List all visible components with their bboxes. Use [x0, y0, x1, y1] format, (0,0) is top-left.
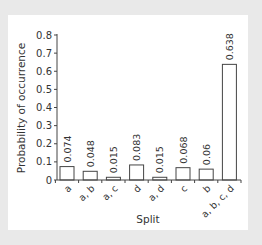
bar-value-label: 0.06 [201, 144, 212, 165]
bar [60, 167, 74, 180]
bars: 0.0740.0480.0150.0830.0150.0680.060.638 [60, 33, 236, 180]
bar-value-label: 0.015 [108, 146, 119, 173]
y-tick-label: 0.1 [36, 156, 52, 167]
bar [222, 64, 236, 180]
bar-value-label: 0.068 [178, 136, 189, 163]
bar [130, 165, 144, 180]
x-axis-label: Split [136, 213, 159, 225]
y-tick-label: 0.6 [36, 66, 52, 77]
y-axis-label: Probability of occurrence [15, 43, 27, 174]
bar-value-label: 0.638 [224, 33, 235, 60]
bar-value-label: 0.083 [131, 134, 142, 161]
x-tick-label: c [178, 183, 189, 194]
y-tick-label: 0.4 [36, 102, 52, 113]
x-tick-label: a [62, 183, 74, 195]
bar [176, 168, 190, 180]
bar-value-label: 0.074 [62, 135, 73, 162]
y-tick-label: 0.3 [36, 120, 52, 131]
y-tick-label: 0.5 [36, 84, 52, 95]
x-tick-label: d [131, 183, 143, 195]
x-tick-label: a, d [146, 183, 166, 203]
bar [83, 171, 97, 180]
bar [199, 169, 213, 180]
x-tick-label: b [201, 183, 213, 195]
y-tick-label: 0.2 [36, 138, 52, 149]
bar-value-label: 0.015 [154, 146, 165, 173]
y-tick-label: 0.8 [36, 30, 52, 41]
y-tick-label: 0.7 [36, 48, 52, 59]
x-tick-label: a, b [76, 183, 96, 203]
y-tick-label: 0 [46, 175, 52, 186]
bar-value-label: 0.048 [85, 140, 96, 167]
bar-chart: 00.10.20.30.40.50.60.70.8 0.0740.0480.01… [0, 0, 262, 245]
x-tick-label: a, c [100, 183, 120, 203]
y-axis: 00.10.20.30.40.50.60.70.8 [36, 30, 57, 186]
